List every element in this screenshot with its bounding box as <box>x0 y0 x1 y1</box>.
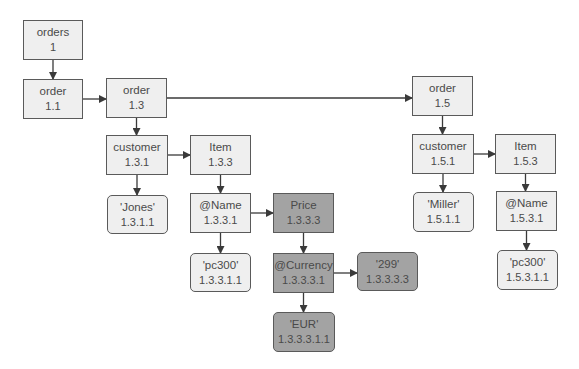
node-id: 1.3.3.3.3 <box>366 272 409 287</box>
node-label: Price <box>290 198 316 213</box>
element-node-n11: order1.1 <box>23 79 83 119</box>
node-id: 1.3.3.1.1 <box>199 273 242 288</box>
node-id: 1.5.3 <box>513 154 537 169</box>
element-node-n15: order1.5 <box>412 76 473 116</box>
value-node-n13311: 'pc300'1.3.3.1.1 <box>190 253 251 292</box>
node-label: 'pc300' <box>203 258 239 273</box>
node-id: 1.3.1.1 <box>121 215 155 230</box>
node-label: 'Jones' <box>120 200 155 215</box>
node-label: Item <box>209 140 231 155</box>
node-id: 1.3.3.3.1 <box>282 273 325 288</box>
node-id: 1.3.3 <box>208 155 232 170</box>
node-label: 'EUR' <box>290 317 319 332</box>
node-id: 1.3.3.1 <box>204 213 238 228</box>
node-label: @Name <box>199 198 241 213</box>
node-label: orders <box>37 25 70 40</box>
node-id: 1.5 <box>435 96 450 111</box>
value-node-n1511: 'Miller'1.5.1.1 <box>413 192 474 232</box>
element-node-n133: Item1.3.3 <box>190 135 251 175</box>
value-node-n13333: '299'1.3.3.3.3 <box>357 252 418 291</box>
node-id: 1.5.3.1 <box>510 211 544 226</box>
node-label: 'Miller' <box>428 197 460 212</box>
element-node-n13331: @Currency1.3.3.3.1 <box>273 253 334 293</box>
element-node-n1331: @Name1.3.3.1 <box>190 193 251 233</box>
element-node-n1333: Price1.3.3.3 <box>273 193 334 233</box>
node-label: @Currency <box>274 258 332 273</box>
node-id: 1 <box>50 40 56 55</box>
element-node-n1: orders1 <box>23 20 83 60</box>
node-id: 1.3 <box>129 98 144 113</box>
value-node-n133311: 'EUR'1.3.3.3.1.1 <box>273 312 335 352</box>
element-node-n151: customer1.5.1 <box>412 134 474 174</box>
node-label: '299' <box>376 257 400 272</box>
node-label: order <box>123 83 150 98</box>
element-node-n13: order1.3 <box>106 78 167 118</box>
value-node-n15311: 'pc300'1.5.3.1.1 <box>497 250 558 290</box>
node-label: customer <box>113 140 160 155</box>
tree-diagram: orders1order1.1order1.3order1.5customer1… <box>0 0 579 369</box>
node-label: order <box>40 84 67 99</box>
node-id: 1.5.3.1.1 <box>506 270 549 285</box>
node-id: 1.5.1 <box>431 154 455 169</box>
element-node-n153: Item1.5.3 <box>495 134 556 174</box>
node-id: 1.3.3.3 <box>287 213 321 228</box>
element-node-n131: customer1.3.1 <box>106 135 168 175</box>
node-id: 1.3.3.3.1.1 <box>278 332 330 347</box>
node-id: 1.3.1 <box>125 155 149 170</box>
element-node-n1531: @Name1.5.3.1 <box>496 191 557 231</box>
node-label: 'pc300' <box>510 255 546 270</box>
node-label: Item <box>514 139 536 154</box>
node-label: @Name <box>505 196 547 211</box>
node-id: 1.5.1.1 <box>427 212 461 227</box>
node-label: order <box>429 81 456 96</box>
node-label: customer <box>419 139 466 154</box>
node-id: 1.1 <box>45 99 60 114</box>
value-node-n1311: 'Jones'1.3.1.1 <box>107 195 168 234</box>
